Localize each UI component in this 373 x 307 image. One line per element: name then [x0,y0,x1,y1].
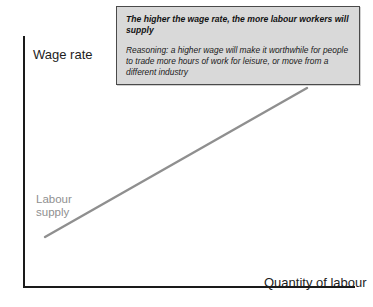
explanation-callout: The higher the wage rate, the more labou… [116,6,360,85]
callout-body: Reasoning: a higher wage will make it wo… [126,45,350,78]
labour-supply-label: Labour supply [36,193,72,219]
labour-supply-diagram: Wage rate Quantity of labour Labour supp… [0,0,373,307]
labour-supply-label-line2: supply [36,206,72,219]
labour-supply-line [45,88,307,237]
labour-supply-label-line1: Labour [36,193,72,206]
callout-headline: The higher the wage rate, the more labou… [126,14,350,36]
